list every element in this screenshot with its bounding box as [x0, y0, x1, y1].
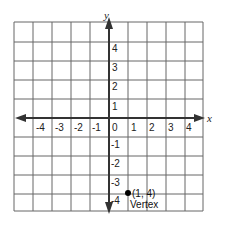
x-tick: -1 — [92, 122, 101, 133]
vertex-name-label: Vertex — [130, 199, 158, 210]
x-tick: 4 — [186, 122, 192, 133]
x-tick: 2 — [149, 122, 155, 133]
coordinate-plane: y x -4 -3 -2 -1 0 1 2 3 4 4 3 2 1 -1 -2 … — [0, 0, 226, 225]
y-axis-label: y — [103, 9, 109, 21]
y-tick: 1 — [112, 101, 118, 112]
y-tick: 2 — [112, 81, 118, 92]
x-tick: -2 — [74, 122, 83, 133]
y-tick: 3 — [112, 62, 118, 73]
vertex-coordinate-label: (1, 4) — [132, 188, 155, 199]
vertex-point — [125, 190, 131, 196]
x-axis-label: x — [206, 112, 212, 124]
x-axis-left-arrow-icon — [15, 114, 26, 122]
y-tick: -3 — [111, 177, 120, 188]
x-tick: 1 — [131, 122, 137, 133]
x-tick: 3 — [168, 122, 174, 133]
y-tick: -1 — [111, 139, 120, 150]
x-tick: 0 — [112, 122, 118, 133]
x-tick: -3 — [55, 122, 64, 133]
y-tick: -2 — [111, 158, 120, 169]
y-tick: 4 — [112, 43, 118, 54]
y-tick: -4 — [111, 195, 120, 206]
x-tick: -4 — [36, 122, 45, 133]
